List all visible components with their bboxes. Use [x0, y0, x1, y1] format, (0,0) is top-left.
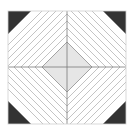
geometric-tile: [0, 0, 130, 127]
